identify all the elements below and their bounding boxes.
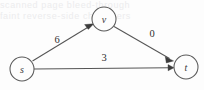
node-s-label: s <box>20 64 24 75</box>
edge-s-to-t-arrowhead <box>168 65 174 71</box>
edge-s-to-v-line <box>33 26 91 61</box>
edge-weight-s-t: 3 <box>101 52 106 63</box>
node-v[interactable]: v <box>92 7 116 31</box>
node-t[interactable]: t <box>174 55 198 79</box>
edge-s-to-t-line <box>34 68 170 69</box>
edge-v-to-t-arrowhead <box>165 57 173 63</box>
node-s[interactable]: s <box>10 57 34 81</box>
edge-v-to-t-line <box>114 27 170 59</box>
graph-canvas: s v t 6 0 3 <box>0 0 204 90</box>
edge-weight-s-v: 6 <box>54 34 59 45</box>
node-t-label: t <box>185 62 188 73</box>
node-v-label: v <box>102 14 107 25</box>
edge-s-to-v <box>33 24 94 61</box>
edge-weight-v-t: 0 <box>149 28 154 39</box>
edge-v-to-t <box>114 27 174 63</box>
graph-figure: scanned page bleed-through faint reverse… <box>0 0 204 90</box>
edge-s-to-t <box>34 65 174 71</box>
